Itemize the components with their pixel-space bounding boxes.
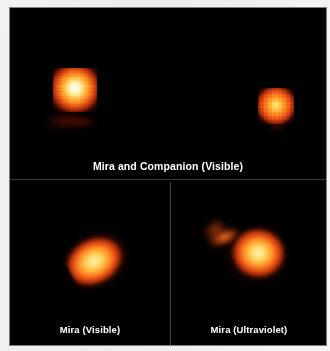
panel-mira-ultraviolet[interactable]: Mira (Ultraviolet) — [172, 182, 326, 345]
panel-mira-and-companion[interactable]: Mira and Companion (Visible) — [10, 8, 326, 180]
caption-panel-bottom-left: Mira (Visible) — [10, 324, 170, 335]
caption-panel-bottom-right: Mira (Ultraviolet) — [172, 324, 326, 335]
sky-background-bottom-right — [172, 182, 326, 345]
figure-page: Mira and Companion (Visible) Mira (Visib… — [0, 0, 330, 351]
image-plate: Mira and Companion (Visible) Mira (Visib… — [10, 8, 326, 345]
panel-mira-visible[interactable]: Mira (Visible) — [10, 182, 171, 345]
caption-panel-top: Mira and Companion (Visible) — [10, 160, 326, 172]
sky-background-bottom-left — [10, 182, 170, 345]
sky-background-top — [10, 8, 326, 179]
